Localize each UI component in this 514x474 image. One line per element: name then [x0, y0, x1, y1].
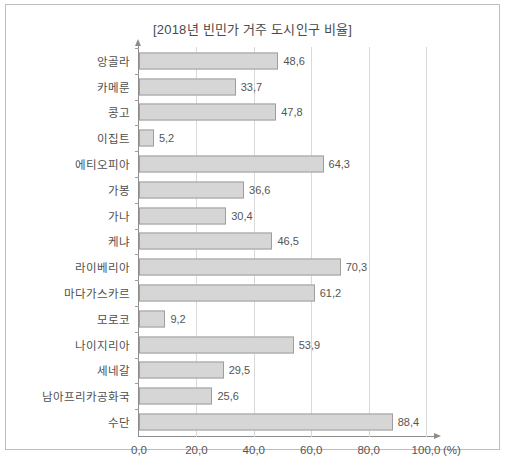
category-label: 앙골라	[97, 53, 130, 69]
category-label: 나이지리아	[75, 337, 130, 353]
x-tick-label: 80,0	[357, 444, 379, 456]
x-tick-label: 40,0	[243, 444, 265, 456]
category-label: 마다가스카르	[64, 285, 130, 301]
x-tick-label: 100,0	[412, 444, 441, 456]
bar-row: 라이베리아70,3	[139, 254, 426, 280]
x-axis-arrow-icon	[434, 433, 441, 439]
bar	[139, 362, 224, 379]
bar	[139, 130, 154, 147]
bar	[139, 310, 165, 327]
bar-value-label: 25,6	[217, 390, 238, 402]
y-axis-tick	[135, 332, 139, 333]
category-label: 남아프리카공화국	[42, 388, 130, 404]
bar	[139, 78, 236, 95]
bar-row: 가나30,4	[139, 203, 426, 229]
category-label: 콩고	[108, 104, 130, 120]
bar-value-label: 70,3	[346, 261, 367, 273]
category-label: 이집트	[97, 130, 130, 146]
bar-value-label: 30,4	[231, 210, 252, 222]
bar	[139, 259, 341, 276]
bar-row: 마다가스카르61,2	[139, 280, 426, 306]
category-label: 케냐	[108, 233, 130, 249]
x-tick-label: 20,0	[185, 444, 207, 456]
bar	[139, 156, 324, 173]
y-axis-tick	[135, 358, 139, 359]
bar-row: 세네갈29,5	[139, 358, 426, 384]
bar-value-label: 29,5	[229, 364, 250, 376]
bar-value-label: 46,5	[277, 235, 298, 247]
bar-value-label: 33,7	[241, 81, 262, 93]
y-axis-tick	[135, 48, 139, 49]
y-axis-tick	[135, 254, 139, 255]
x-tick-label: 0,0	[131, 444, 147, 456]
gridline	[426, 47, 427, 437]
bar	[139, 388, 212, 405]
bar-value-label: 47,8	[281, 106, 302, 118]
x-tick-label: 60,0	[300, 444, 322, 456]
y-axis-tick	[135, 74, 139, 75]
bar	[139, 52, 278, 69]
chart-figure: [2018년 빈민가 거주 도시인구 비율] 앙골라48,6카메룬33,7콩고4…	[5, 4, 500, 450]
category-label: 가봉	[108, 182, 130, 198]
bar-row: 남아프리카공화국25,6	[139, 383, 426, 409]
bar	[139, 336, 294, 353]
bar-row: 수단88,4	[139, 409, 426, 435]
y-axis-tick	[135, 177, 139, 178]
y-axis-tick	[135, 125, 139, 126]
bar	[139, 207, 226, 224]
bar-value-label: 61,2	[320, 287, 341, 299]
bar-value-label: 53,9	[299, 339, 320, 351]
bar	[139, 104, 276, 121]
bar-row: 에티오피아64,3	[139, 151, 426, 177]
bar-value-label: 48,6	[283, 55, 304, 67]
bar	[139, 285, 315, 302]
bar-row: 앙골라48,6	[139, 48, 426, 74]
bar-value-label: 88,4	[398, 416, 419, 428]
y-axis-tick	[135, 306, 139, 307]
y-axis-tick	[135, 151, 139, 152]
bar-row: 가봉36,6	[139, 177, 426, 203]
bar-row: 카메룬33,7	[139, 74, 426, 100]
y-axis-arrow-icon	[135, 39, 141, 46]
category-label: 모로코	[97, 311, 130, 327]
y-axis-tick	[135, 409, 139, 410]
category-label: 라이베리아	[75, 259, 130, 275]
y-axis-tick	[135, 229, 139, 230]
bar-value-label: 5,2	[159, 132, 174, 144]
bar-value-label: 36,6	[249, 184, 270, 196]
bar-value-label: 64,3	[329, 158, 350, 170]
y-axis-tick	[135, 203, 139, 204]
y-axis-tick	[135, 383, 139, 384]
bar-row: 이집트5,2	[139, 125, 426, 151]
category-label: 에티오피아	[75, 156, 130, 172]
category-label: 세네갈	[97, 362, 130, 378]
category-label: 카메룬	[97, 79, 130, 95]
bar-row: 콩고47,8	[139, 100, 426, 126]
bar	[139, 414, 393, 431]
bar-row: 모로코9,2	[139, 306, 426, 332]
chart-title: [2018년 빈민가 거주 도시인구 비율]	[6, 19, 499, 38]
bar	[139, 233, 272, 250]
bar	[139, 181, 244, 198]
bar-row: 나이지리아53,9	[139, 332, 426, 358]
bar-value-label: 9,2	[170, 313, 185, 325]
category-label: 수단	[108, 414, 130, 430]
y-axis-tick	[135, 100, 139, 101]
category-label: 가나	[108, 208, 130, 224]
plot-area: 앙골라48,6카메룬33,7콩고47,8이집트5,2에티오피아64,3가봉36,…	[139, 47, 426, 437]
y-axis-tick	[135, 280, 139, 281]
bar-row: 케냐46,5	[139, 229, 426, 255]
x-axis-unit-label: (%)	[443, 444, 461, 456]
